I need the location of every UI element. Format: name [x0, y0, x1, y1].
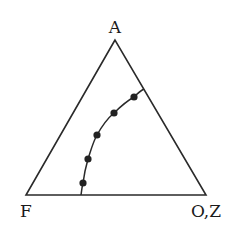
data-point — [84, 155, 91, 162]
composition-curve — [81, 89, 144, 195]
data-point — [79, 179, 86, 186]
triangle-outline — [26, 40, 206, 195]
vertex-label-left: F — [20, 201, 32, 221]
data-points — [79, 93, 137, 186]
data-point — [130, 93, 137, 100]
vertex-label-top: A — [108, 17, 122, 37]
data-point — [110, 109, 117, 116]
vertex-label-right: O,Z — [191, 201, 221, 221]
data-point — [93, 131, 100, 138]
ternary-diagram: A F O,Z — [0, 0, 235, 236]
